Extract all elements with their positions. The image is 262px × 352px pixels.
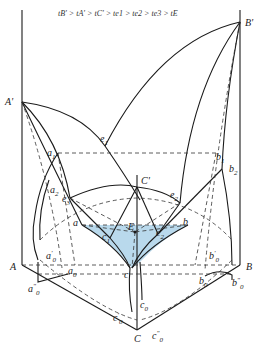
label-b0-prime: b'0 [209, 250, 219, 264]
temperature-order-caption: tB' > tA' > tC' > te1 > te2 > te3 > tE [58, 9, 178, 18]
label-b0: b0 [199, 276, 208, 289]
label-b2: b2 [229, 164, 238, 177]
label-a1: a1 [47, 148, 56, 161]
curve-b2-down [222, 169, 232, 265]
curve-c0 [140, 262, 142, 300]
phase-diagram: tB' > tA' > tC' > te1 > te2 > te3 > tE A… [0, 0, 262, 352]
label-E: E [128, 222, 134, 232]
label-c0-double-prime: c"0 [152, 330, 163, 344]
label-C: C [134, 334, 141, 344]
label-c2: c2 [156, 228, 164, 241]
label-B-prime: B' [245, 18, 253, 28]
label-a0: a0 [68, 266, 77, 279]
dashed-b1-down [195, 153, 216, 265]
label-e3: e3 [62, 194, 70, 207]
label-C-prime: C' [141, 176, 150, 186]
curve-c-down [129, 268, 132, 312]
curve-B-e1 [105, 22, 240, 146]
label-a0-double-prime: a"0 [28, 283, 39, 297]
label-a0-prime: a'0 [46, 250, 56, 264]
edge-BC [137, 265, 240, 330]
label-b1: b1 [216, 152, 225, 165]
label-b0-double-prime: b"0 [232, 277, 243, 291]
dashed-a1-down [58, 153, 75, 265]
label-b: b [183, 217, 188, 227]
label-c: c [124, 270, 128, 280]
diagram-lines [0, 0, 262, 352]
label-A-prime: A' [5, 97, 13, 107]
label-e2: e2 [170, 190, 178, 203]
dashed-right-low [140, 260, 232, 320]
label-a: a [73, 218, 78, 228]
arc-e3-Cprime-e2 [70, 185, 180, 203]
dashed-B-b0 [205, 22, 240, 270]
label-B: B [246, 262, 252, 272]
label-A: A [10, 262, 16, 272]
curve-B-b2 [222, 22, 240, 169]
label-a2: a2 [50, 185, 59, 198]
label-c1: c1 [102, 232, 110, 245]
label-c0: c0 [140, 300, 148, 313]
line-b2-c2 [158, 169, 222, 234]
dashed-left-low [40, 260, 137, 320]
label-c0-prime: c'0 [113, 312, 122, 326]
label-e1: e1 [100, 134, 108, 147]
